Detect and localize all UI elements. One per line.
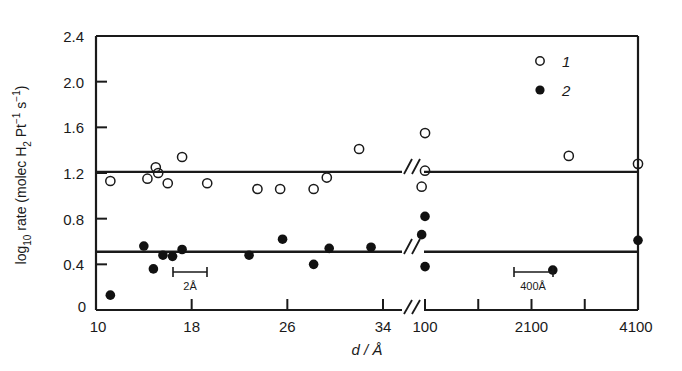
series-2-point	[420, 212, 430, 222]
x-axis-title: d / Å	[352, 341, 383, 358]
x-tick-label: 100	[412, 318, 437, 335]
series-1-point	[322, 173, 331, 182]
x-tick-label: 2100	[515, 318, 548, 335]
scale-bar-left-label: 2Å	[183, 280, 197, 292]
series-2-point	[278, 234, 288, 244]
x-tick-label: 18	[183, 318, 200, 335]
series-1-point	[276, 184, 285, 193]
legend-label-1: 1	[562, 53, 570, 70]
series-2-point	[366, 242, 376, 252]
trend-line-break-lower	[402, 239, 424, 254]
y-tick-label: 0.8	[63, 211, 84, 228]
series-2-point	[149, 264, 159, 274]
y-tick-label: 2.4	[63, 28, 84, 45]
chart-figure: log10 rate (molec H2 Pt−1 s−1) 00.40.81.…	[0, 0, 682, 371]
series-2-point	[106, 290, 116, 300]
x-tick-label: 10	[90, 318, 107, 335]
y-axis-title-mid: rate (molec H	[13, 147, 29, 235]
series-1-point	[151, 163, 160, 172]
y-axis-title-sup1: −1	[11, 112, 22, 124]
scale-bar-left: 2Å	[173, 267, 207, 292]
trend-lines	[96, 172, 638, 252]
y-axis-title-mid3: s	[13, 102, 29, 113]
series-1-point	[163, 179, 172, 188]
y-axis-title-sub10: 10	[22, 234, 33, 246]
y-axis-title-log: log	[13, 246, 29, 265]
x-tick-label: 34	[375, 318, 392, 335]
series-2-point	[158, 250, 168, 260]
series-2-point	[177, 245, 187, 255]
series-1-point	[203, 179, 212, 188]
series-1-data-points	[106, 128, 643, 193]
series-1-point	[253, 184, 262, 193]
svg-text:log10 rate (molec H2 Pt−1 s−1): log10 rate (molec H2 Pt−1 s−1)	[11, 86, 33, 265]
y-tick-label: 1.6	[63, 119, 84, 136]
scale-bar-right: 400Å	[514, 267, 553, 292]
series-2-point	[168, 252, 178, 262]
y-axis-title-sup2: −1	[11, 90, 22, 102]
y-axis-tick-labels: 00.40.81.21.62.02.4	[63, 28, 86, 315]
series-1-point	[309, 184, 318, 193]
y-tick-label: 0.4	[63, 256, 84, 273]
series-1-point	[564, 151, 573, 160]
series-2-point	[244, 250, 254, 260]
y-tick-label: 2.0	[63, 74, 84, 91]
y-axis-title-mid2: Pt	[13, 124, 29, 141]
x-axis-break-marker	[402, 300, 424, 317]
y-tick-label: 1.2	[63, 165, 84, 182]
series-1-point	[354, 144, 363, 153]
chart-svg: log10 rate (molec H2 Pt−1 s−1) 00.40.81.…	[0, 0, 682, 371]
legend-open-circle-icon	[536, 57, 544, 65]
x-tick-label: 4100	[619, 318, 652, 335]
x-tick-label: 26	[279, 318, 296, 335]
series-1-point	[420, 128, 429, 137]
x-axis-ticks	[192, 299, 585, 310]
series-2-point	[633, 236, 643, 246]
legend-label-2: 2	[561, 82, 571, 99]
y-tick-label: 0	[78, 298, 86, 315]
series-1-point	[143, 174, 152, 183]
series-1-point	[417, 182, 426, 191]
series-2-point	[139, 241, 149, 251]
y-axis-title: log10 rate (molec H2 Pt−1 s−1)	[11, 86, 33, 265]
series-1-point	[106, 176, 115, 185]
series-1-point	[178, 152, 187, 161]
x-axis-tick-labels: 1018263410021004100	[90, 318, 653, 335]
legend-filled-circle-icon	[535, 85, 544, 94]
series-2-point	[420, 262, 430, 272]
chart-legend: 1 2	[535, 53, 571, 99]
scale-bar-right-label: 400Å	[520, 280, 546, 292]
series-2-point	[324, 244, 334, 254]
y-axis-title-suffix: )	[13, 86, 29, 91]
series-2-point	[309, 260, 319, 270]
series-2-point	[417, 230, 427, 240]
